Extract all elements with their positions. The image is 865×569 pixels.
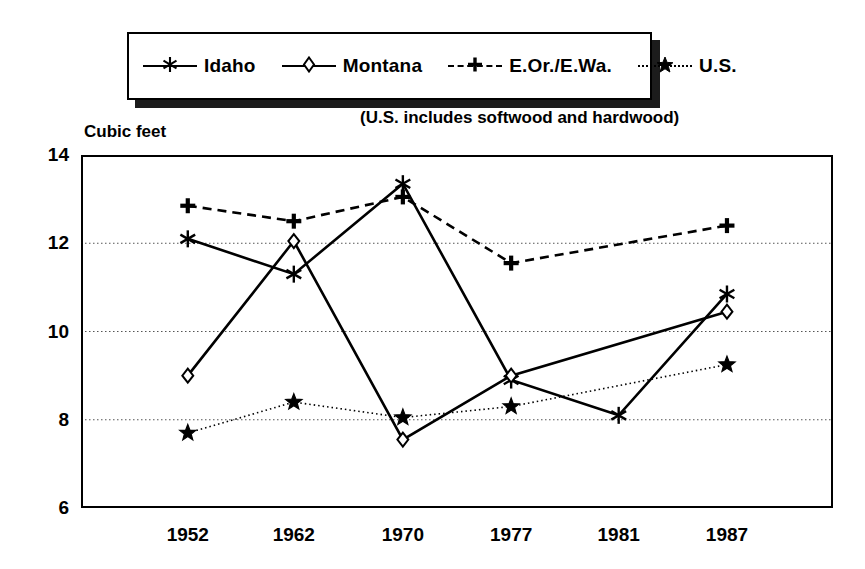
- asterisk-marker-icon: [162, 56, 179, 76]
- y-axis-tick-label: 14: [29, 144, 69, 166]
- chart-legend: Idaho Montana: [127, 32, 652, 100]
- y-axis-tick-label: 10: [29, 321, 69, 343]
- data-point-marker: [286, 394, 302, 409]
- diamond-marker-icon: [301, 56, 316, 76]
- x-axis-tick-label: 1962: [249, 524, 339, 546]
- data-point-marker: [719, 218, 734, 233]
- x-axis-tick-label: 1970: [358, 524, 448, 546]
- data-point-marker: [286, 214, 301, 229]
- line-chart: Idaho Montana: [0, 0, 865, 569]
- data-point-marker: [504, 256, 519, 271]
- y-axis-title: Cubic feet: [84, 122, 166, 142]
- data-point-marker: [722, 305, 733, 319]
- star-marker-icon: [657, 56, 674, 76]
- y-axis-tick-label: 6: [29, 497, 69, 519]
- legend-swatch-idaho: [143, 56, 197, 76]
- series-line: [188, 197, 727, 263]
- plot-area: [81, 155, 833, 508]
- series-line: [188, 241, 727, 440]
- data-point-marker: [180, 424, 196, 439]
- plus-marker-icon: [467, 56, 484, 76]
- data-point-marker: [503, 398, 519, 413]
- chart-note: (U.S. includes softwood and hardwood): [360, 108, 679, 128]
- legend-swatch-us: [638, 56, 692, 76]
- legend-swatch-montana: [282, 56, 336, 76]
- x-axis-tick-label: 1981: [574, 524, 664, 546]
- legend-swatch-eor-ewa: [448, 56, 502, 76]
- legend-item-eor-ewa: E.Or./E.Wa.: [448, 55, 612, 77]
- legend-item-montana: Montana: [282, 55, 423, 77]
- legend-label-montana: Montana: [343, 55, 423, 77]
- data-point-marker: [395, 409, 411, 424]
- legend-item-idaho: Idaho: [143, 55, 256, 77]
- legend-label-us: U.S.: [699, 55, 737, 77]
- y-axis-tick-label: 12: [29, 232, 69, 254]
- series-line: [188, 365, 727, 433]
- y-axis-tick-label: 8: [29, 409, 69, 431]
- data-point-marker: [180, 230, 195, 247]
- legend-label-idaho: Idaho: [204, 55, 256, 77]
- x-axis-tick-label: 1977: [466, 524, 556, 546]
- legend-item-us: U.S.: [638, 55, 737, 77]
- data-point-marker: [719, 356, 735, 371]
- data-point-marker: [180, 198, 195, 213]
- x-axis-tick-label: 1987: [682, 524, 772, 546]
- x-axis-tick-label: 1952: [143, 524, 233, 546]
- legend-label-eor-ewa: E.Or./E.Wa.: [509, 55, 612, 77]
